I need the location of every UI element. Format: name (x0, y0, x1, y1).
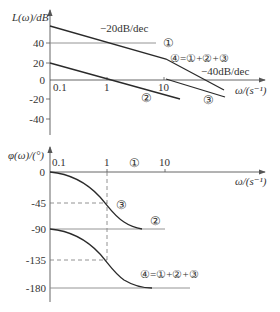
phase-x-label: ω/(s⁻¹) (235, 175, 267, 188)
y-tick-20: 20 (33, 57, 45, 69)
phase-curve-1-label: ① (129, 156, 140, 170)
y-tick-minus20: -20 (29, 93, 44, 105)
magnitude-y-label: L(ω)/dB (11, 11, 49, 24)
phase-curve-2-label: ② (150, 214, 161, 228)
y-tick-0: 0 (40, 74, 46, 86)
slope-label-minus40: −40dB/dec (201, 65, 249, 77)
magnitude-plot: L(ω)/dB 40 20 0 -20 -40 0.1 1 10 ω/(s⁻¹)… (11, 10, 267, 135)
curve-4-label: ④=①+②+③ (170, 52, 229, 64)
curve-4-phase (50, 229, 152, 288)
x-tick-10: 10 (158, 81, 170, 93)
phase-y-tick-0: 0 (40, 166, 46, 178)
x-tick-1: 1 (104, 81, 110, 93)
phase-y-tick-minus135: -135 (26, 254, 47, 266)
phase-x-tick-1: 1 (104, 156, 110, 168)
curve-3-magnitude (166, 79, 225, 97)
curve-1-label: ① (163, 36, 174, 50)
phase-y-tick-minus180: -180 (26, 282, 47, 294)
phase-x-tick-0.1: 0.1 (52, 156, 66, 168)
phase-curve-3-label: ③ (116, 198, 127, 212)
y-tick-minus40: -40 (29, 113, 44, 125)
phase-y-ticks: 0 -45 -90 -135 -180 (26, 166, 47, 294)
y-tick-40: 40 (33, 37, 45, 49)
bode-diagram: L(ω)/dB 40 20 0 -20 -40 0.1 1 10 ω/(s⁻¹)… (0, 0, 280, 312)
magnitude-x-label: ω/(s⁻¹) (235, 84, 267, 97)
phase-x-ticks: 0.1 1 10 (52, 156, 171, 172)
phase-y-tick-minus90: -90 (31, 223, 46, 235)
phase-curve-4-label: ④=①+②+③ (140, 268, 199, 280)
phase-x-tick-10: 10 (159, 156, 171, 168)
phase-y-label: φ(ω)/(°) (8, 149, 44, 162)
slope-label-minus20: −20dB/dec (100, 22, 148, 34)
curve-3-label: ③ (203, 93, 214, 107)
phase-plot: φ(ω)/(°) 0.1 1 10 ① ω/(s⁻¹) 0 -45 -90 -1… (8, 147, 267, 302)
phase-y-tick-minus45: -45 (31, 197, 46, 209)
x-tick-0.1: 0.1 (53, 81, 67, 93)
curve-3-phase (50, 172, 142, 229)
curve-2-label: ② (141, 91, 152, 105)
magnitude-y-ticks: 40 20 0 -20 -40 (29, 37, 50, 125)
